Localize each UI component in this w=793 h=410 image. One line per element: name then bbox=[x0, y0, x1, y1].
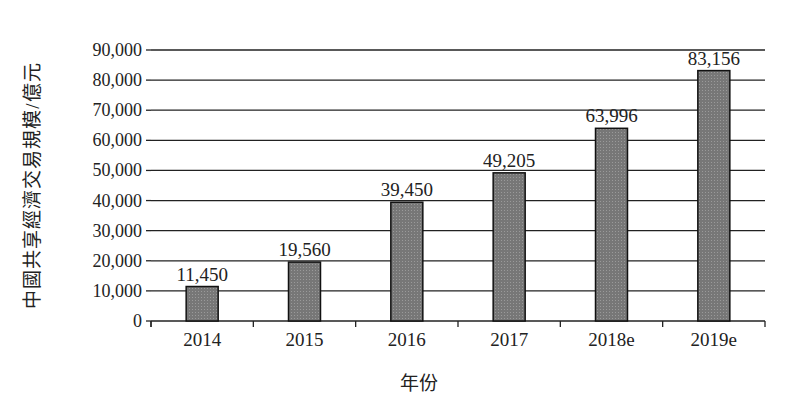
bar-2015 bbox=[289, 262, 321, 321]
bar-2019e bbox=[698, 71, 730, 321]
x-tick-label: 2018e bbox=[588, 329, 634, 350]
x-axis-title: 年份 bbox=[400, 368, 438, 395]
bar-chart: 010,00020,00030,00040,00050,00060,00070,… bbox=[0, 0, 793, 410]
bar-value-label: 83,156 bbox=[688, 48, 740, 69]
y-tick-label: 0 bbox=[133, 311, 142, 331]
y-tick-label: 70,000 bbox=[93, 100, 143, 120]
y-tick-label: 60,000 bbox=[93, 130, 143, 150]
y-tick-label: 40,000 bbox=[93, 191, 143, 211]
y-tick-label: 10,000 bbox=[93, 281, 143, 301]
bar-value-label: 39,450 bbox=[381, 179, 433, 200]
y-tick-label: 30,000 bbox=[93, 221, 143, 241]
bar-2017 bbox=[493, 173, 525, 321]
y-tick-label: 80,000 bbox=[93, 70, 143, 90]
bar-value-label: 49,205 bbox=[483, 150, 535, 171]
x-tick-label: 2019e bbox=[691, 329, 737, 350]
y-axis-title: 中國共享經濟交易規模/億元 bbox=[10, 30, 50, 340]
chart-plot-area: 010,00020,00030,00040,00050,00060,00070,… bbox=[0, 0, 793, 410]
x-tick-label: 2016 bbox=[388, 329, 426, 350]
bar-2014 bbox=[186, 287, 218, 321]
bar-2018e bbox=[596, 128, 628, 321]
bar-value-label: 63,996 bbox=[585, 105, 637, 126]
y-tick-label: 90,000 bbox=[93, 40, 143, 60]
bar-value-label: 19,560 bbox=[278, 239, 330, 260]
x-tick-label: 2015 bbox=[286, 329, 324, 350]
y-axis-title-text: 中國共享經濟交易規模/億元 bbox=[17, 62, 44, 308]
bar-value-label: 11,450 bbox=[176, 264, 228, 285]
bar-2016 bbox=[391, 202, 423, 321]
x-tick-label: 2014 bbox=[183, 329, 222, 350]
y-tick-label: 20,000 bbox=[93, 251, 143, 271]
x-tick-label: 2017 bbox=[490, 329, 528, 350]
y-tick-label: 50,000 bbox=[93, 160, 143, 180]
